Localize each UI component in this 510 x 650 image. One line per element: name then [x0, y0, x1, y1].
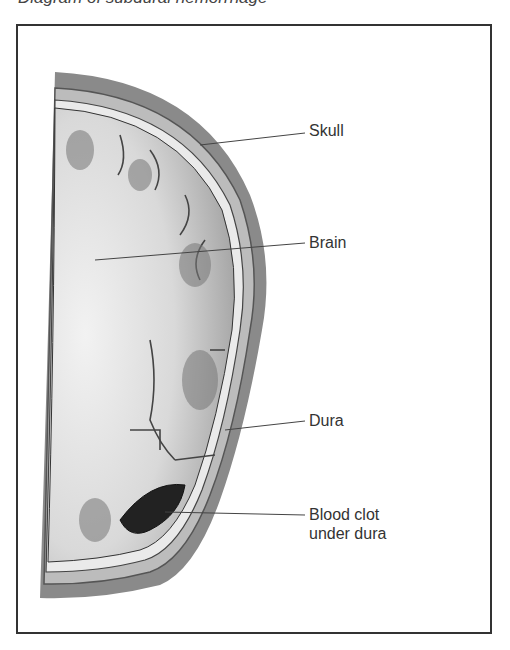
label-skull: Skull	[309, 121, 344, 140]
label-blood-clot-line2: under dura	[309, 524, 386, 543]
brain-cross-section-illustration	[0, 0, 510, 650]
label-dura: Dura	[309, 411, 344, 430]
label-blood-clot-line1: Blood clot	[309, 505, 386, 524]
label-brain: Brain	[309, 233, 346, 252]
label-blood-clot: Blood clot under dura	[309, 505, 386, 543]
